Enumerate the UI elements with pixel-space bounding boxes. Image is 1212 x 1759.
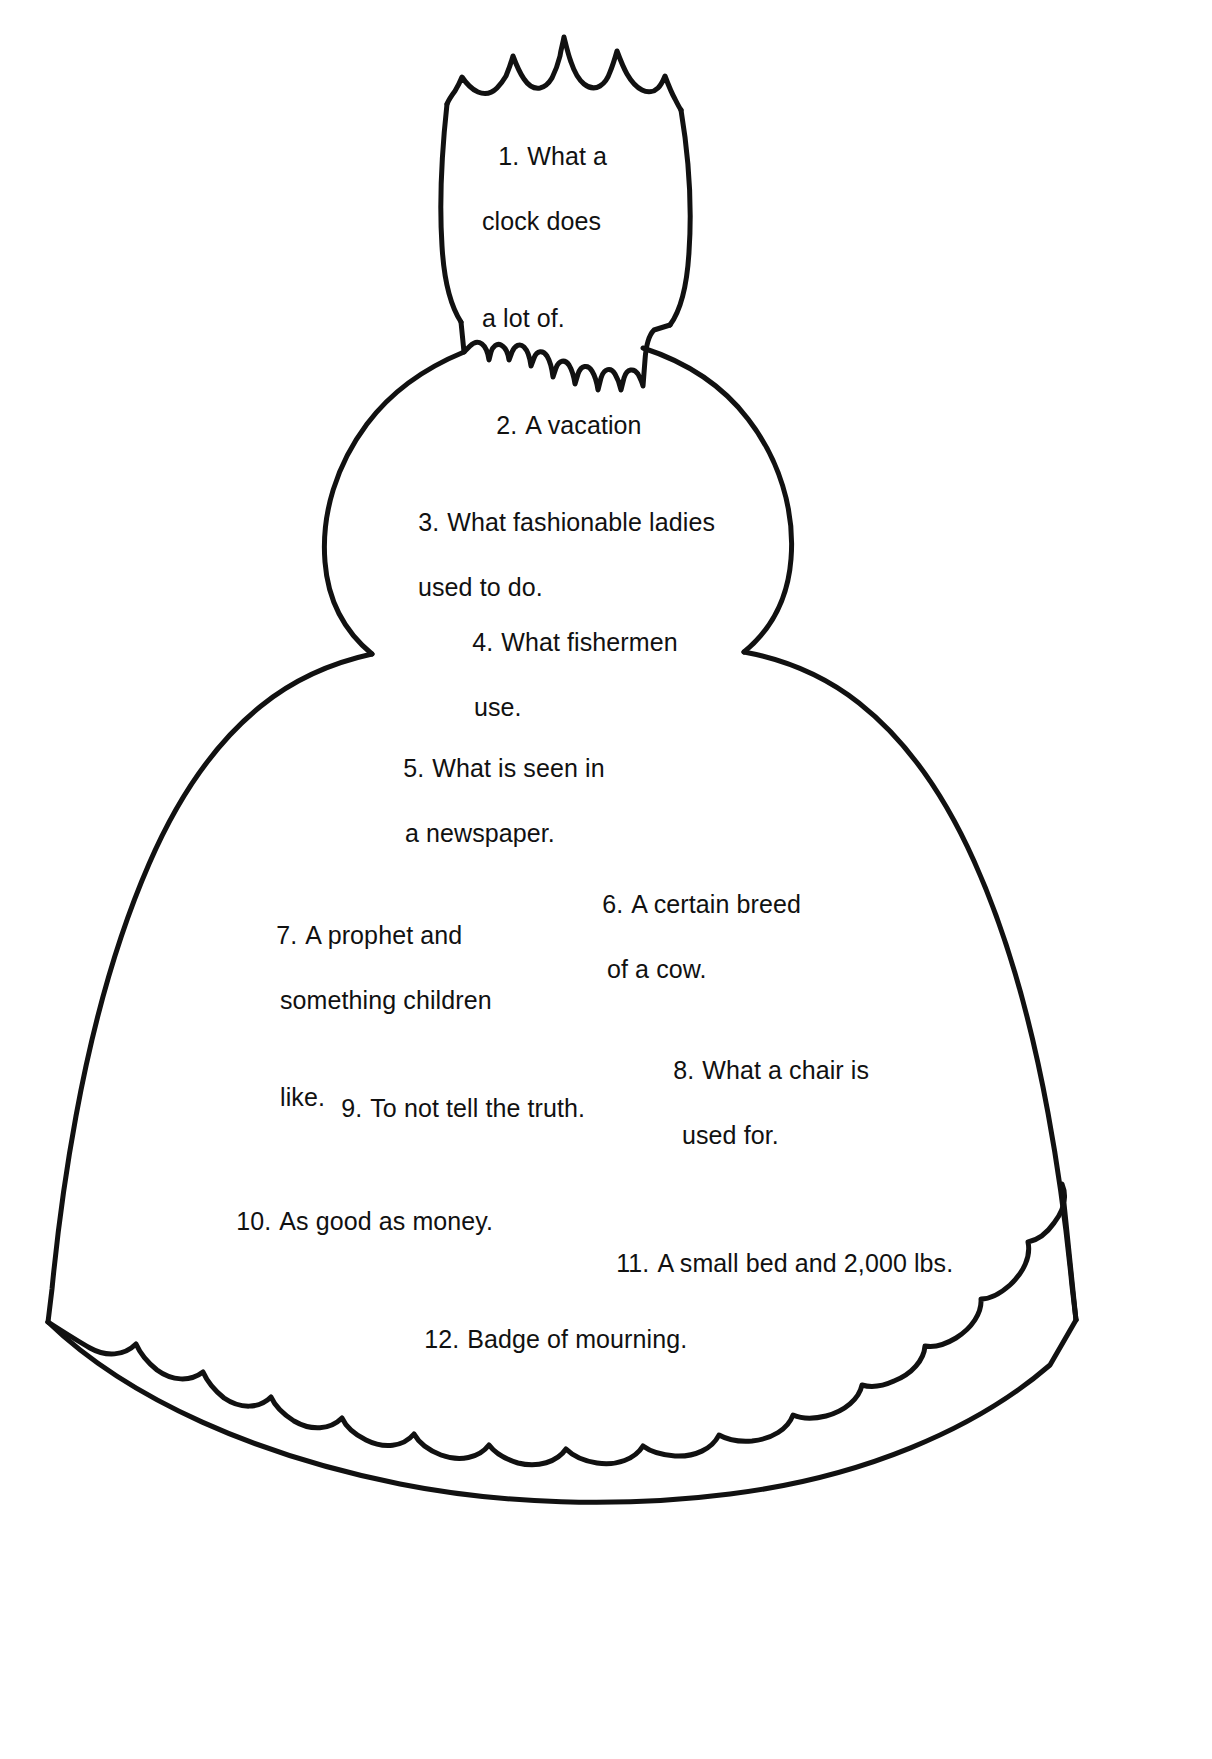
- clue-text-6-line-2: of a cow.: [607, 953, 801, 986]
- clue-text-8-line-2: used for.: [682, 1119, 869, 1152]
- crown-body-outline-right: [670, 110, 690, 325]
- clue-text-7-line-2: something children: [280, 984, 492, 1017]
- clue-number-2: 2.: [496, 409, 517, 442]
- clue-number-7: 7.: [276, 919, 297, 952]
- clue-text-10-line-1: As good as money.: [279, 1205, 493, 1238]
- clue-text-8-line-1: What a chair is: [702, 1054, 869, 1087]
- clue-item-9: 9.To not tell the truth.: [313, 1059, 585, 1157]
- clue-text-11-line-1: A small bed and 2,000 lbs.: [657, 1247, 953, 1280]
- clue-number-12: 12.: [424, 1323, 459, 1356]
- clue-number-3: 3.: [418, 506, 439, 539]
- clue-item-12: 12.Badge of mourning.: [396, 1290, 687, 1388]
- clue-text-6-line-1: A certain breed: [631, 888, 801, 921]
- clue-number-11: 11.: [616, 1247, 649, 1280]
- worksheet-page: 1.What a clock does a lot of. 2.A vacati…: [0, 0, 1212, 1759]
- crown-spikes-icon: [447, 37, 681, 110]
- clue-item-1: 1.What a clock does a lot of.: [470, 107, 607, 400]
- clue-text-2-line-1: A vacation: [525, 409, 641, 442]
- clue-text-5-line-1: What is seen in: [432, 752, 604, 785]
- clue-text-3-line-1: What fashionable ladies: [447, 506, 715, 539]
- clue-number-6: 6.: [602, 888, 623, 921]
- clue-number-1: 1.: [498, 140, 519, 173]
- clue-item-8: 8.What a chair is used for.: [645, 1021, 869, 1216]
- clue-item-10: 10.As good as money.: [208, 1172, 493, 1270]
- clue-text-5-line-2: a newspaper.: [405, 817, 605, 850]
- clue-number-10: 10.: [236, 1205, 271, 1238]
- clue-number-9: 9.: [341, 1092, 362, 1125]
- clue-number-8: 8.: [673, 1054, 694, 1087]
- clue-item-5: 5.What is seen in a newspaper.: [375, 719, 605, 914]
- clue-text-4-line-1: What fishermen: [501, 626, 677, 659]
- clue-number-5: 5.: [403, 752, 424, 785]
- clue-text-1-line-1: What a: [527, 140, 607, 173]
- clue-item-2: 2.A vacation: [468, 376, 642, 474]
- clue-text-9-line-1: To not tell the truth.: [370, 1092, 585, 1125]
- clue-number-4: 4.: [472, 626, 493, 659]
- clue-text-7-line-1: A prophet and: [305, 919, 462, 952]
- clue-text-1-line-3: a lot of.: [482, 302, 607, 335]
- clue-text-1-line-2: clock does: [482, 205, 607, 238]
- clue-text-12-line-1: Badge of mourning.: [467, 1323, 687, 1356]
- crown-body-outline: [441, 104, 461, 322]
